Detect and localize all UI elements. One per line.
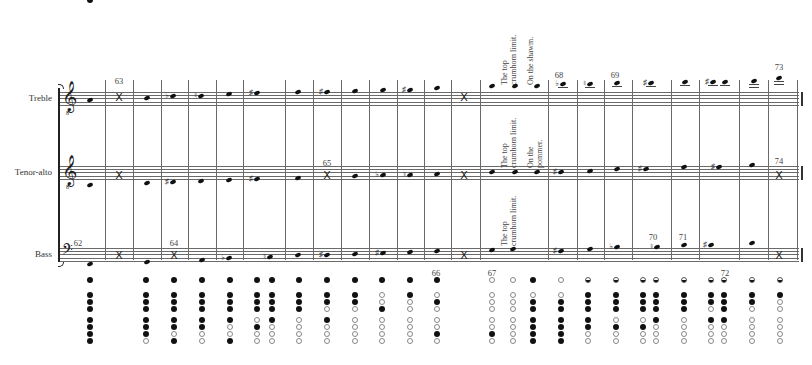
accidental-sharp: ♯: [553, 168, 557, 176]
staff-label: Bass: [0, 249, 52, 259]
accidental-sharp: ♯: [165, 178, 169, 186]
open-hole-icon: [434, 317, 440, 323]
closed-hole-icon: [379, 277, 385, 283]
open-hole-icon: [749, 306, 755, 312]
closed-hole-icon: [171, 277, 177, 283]
barline: [243, 80, 244, 260]
closed-hole-icon: [87, 277, 93, 283]
open-hole-icon: [721, 338, 727, 344]
x-notehead-cross: X: [115, 249, 123, 262]
closed-hole-icon: [269, 299, 275, 305]
bar-number: 73: [775, 62, 784, 72]
closed-hole-icon: [352, 292, 358, 298]
closed-hole-icon: [613, 306, 619, 312]
closed-hole-icon: [558, 331, 564, 337]
open-hole-icon: [653, 331, 659, 337]
open-hole-icon: [379, 317, 385, 323]
barline: [797, 80, 798, 260]
closed-hole-icon: [434, 277, 440, 283]
closed-hole-icon: [489, 331, 495, 337]
closed-hole-icon: [199, 277, 205, 283]
open-hole-icon: [199, 331, 205, 337]
open-hole-icon: [489, 277, 495, 283]
notehead: [488, 83, 495, 89]
open-hole-icon: [510, 338, 516, 344]
open-hole-icon: [489, 306, 495, 312]
open-hole-icon: [777, 299, 783, 305]
open-hole-icon: [510, 292, 516, 298]
accidental-natural: ♮: [194, 92, 197, 100]
notehead: [533, 83, 540, 89]
closed-hole-icon: [87, 324, 93, 330]
closed-hole-icon: [87, 299, 93, 305]
staff-label: Treble: [0, 93, 52, 103]
final-barline: [801, 166, 803, 180]
closed-hole-icon: [296, 292, 302, 298]
half-hole-icon: [613, 277, 619, 283]
open-hole-icon: [434, 338, 440, 344]
notehead: [653, 244, 660, 250]
closed-hole-icon: [585, 299, 591, 305]
open-hole-icon: [613, 331, 619, 337]
closed-hole-icon: [171, 338, 177, 344]
accidental-sharp: ♯: [249, 89, 253, 97]
open-hole-icon: [269, 338, 275, 344]
closed-hole-icon: [721, 299, 727, 305]
open-hole-icon: [510, 299, 516, 305]
final-barline: [801, 92, 803, 106]
accidental-flat: ♭: [375, 171, 379, 179]
notehead: [143, 259, 150, 265]
closed-hole-icon: [681, 292, 687, 298]
open-hole-icon: [613, 317, 619, 323]
open-hole-icon: [407, 306, 413, 312]
closed-hole-icon: [227, 277, 233, 283]
notehead: [294, 89, 301, 95]
open-hole-icon: [143, 338, 149, 344]
open-hole-icon: [708, 306, 714, 312]
x-notehead-cross: X: [460, 169, 468, 182]
notehead: [613, 166, 620, 172]
open-hole-icon: [489, 324, 495, 330]
accidental-sharp: ♯: [638, 165, 642, 173]
half-hole-icon: [640, 277, 646, 283]
accidental-sharp: ♯: [249, 175, 253, 183]
annotation-text: The top crumhorn limit.: [501, 5, 519, 85]
open-hole-icon: [379, 338, 385, 344]
open-hole-icon: [777, 338, 783, 344]
closed-hole-icon: [143, 324, 149, 330]
closed-hole-icon: [199, 299, 205, 305]
system-bracket-bottom-hook: [58, 262, 64, 267]
open-hole-icon: [352, 331, 358, 337]
open-hole-icon: [558, 277, 564, 283]
open-hole-icon: [489, 317, 495, 323]
bass-clef-icon: 𝄢: [62, 243, 73, 260]
closed-hole-icon: [708, 292, 714, 298]
bar-number: 70: [649, 232, 658, 242]
open-hole-icon: [777, 331, 783, 337]
accidental-natural: ♮: [263, 253, 266, 261]
open-hole-icon: [749, 324, 755, 330]
open-hole-icon: [653, 324, 659, 330]
barline: [133, 80, 134, 260]
closed-hole-icon: [585, 324, 591, 330]
notehead: [143, 95, 150, 101]
open-hole-icon: [434, 306, 440, 312]
staff-line: [60, 176, 799, 177]
closed-hole-icon: [296, 299, 302, 305]
barline: [671, 80, 672, 260]
open-hole-icon: [352, 317, 358, 323]
open-hole-icon: [352, 324, 358, 330]
barline: [161, 80, 162, 260]
open-hole-icon: [199, 338, 205, 344]
barline: [285, 80, 286, 260]
closed-hole-icon: [269, 292, 275, 298]
closed-hole-icon: [558, 306, 564, 312]
notehead: [748, 240, 755, 246]
closed-hole-icon: [254, 324, 260, 330]
open-hole-icon: [171, 331, 177, 337]
closed-hole-icon: [640, 324, 646, 330]
closed-hole-icon: [721, 317, 727, 323]
half-hole-icon: [653, 277, 659, 283]
accidental-sharp: ♯: [402, 86, 406, 94]
open-hole-icon: [324, 324, 330, 330]
